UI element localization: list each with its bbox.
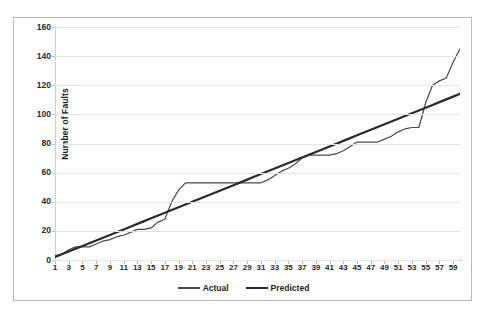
x-axis-tick-mark [275, 261, 276, 264]
x-axis-tick-mark [124, 261, 125, 264]
y-axis-tick-label: 20 [21, 226, 51, 235]
y-axis-tick-mark [52, 231, 55, 232]
x-axis-tick-labels: 1357911131517192123252729313335373941434… [55, 263, 461, 277]
x-axis-tick-mark [426, 261, 427, 264]
gridline [55, 144, 460, 145]
plot-area [55, 27, 460, 260]
y-axis-tick-label: 140 [21, 52, 51, 61]
y-axis-tick-mark [52, 173, 55, 174]
x-axis-tick-mark [82, 261, 83, 264]
x-axis-tick-mark [302, 261, 303, 264]
x-axis-tick-mark [316, 261, 317, 264]
y-axis-tick-mark [52, 85, 55, 86]
x-axis-tick-mark [453, 261, 454, 264]
x-axis-tick-mark [69, 261, 70, 264]
x-axis-tick-mark [96, 261, 97, 264]
y-axis-tick-label: 160 [21, 23, 51, 32]
x-axis-tick-mark [343, 261, 344, 264]
x-axis-tick-mark [151, 261, 152, 264]
gridline [55, 27, 460, 28]
x-axis-tick-mark [371, 261, 372, 264]
y-axis-tick-mark [52, 202, 55, 203]
series-line-predicted [55, 94, 460, 257]
x-axis-tick-mark [55, 261, 56, 264]
gridline [55, 260, 460, 261]
x-axis-tick-mark [398, 261, 399, 264]
x-axis-tick-mark [206, 261, 207, 264]
legend-label-actual: Actual [203, 283, 229, 293]
x-axis-tick-mark [247, 261, 248, 264]
gridline [55, 173, 460, 174]
x-axis-tick-mark [261, 261, 262, 264]
y-axis-tick-labels: 020406080100120140160 [17, 18, 51, 270]
x-axis-tick-mark [412, 261, 413, 264]
y-axis-tick-mark [52, 114, 55, 115]
x-axis-tick-mark [288, 261, 289, 264]
gridline [55, 114, 460, 115]
series-line-actual [55, 49, 460, 256]
y-axis-tick-mark [52, 144, 55, 145]
legend-line-icon-predicted [246, 287, 268, 289]
gridline [55, 85, 460, 86]
x-axis-tick-mark [220, 261, 221, 264]
x-axis-tick-mark [233, 261, 234, 264]
x-axis-tick-mark [110, 261, 111, 264]
chart-legend: Actual Predicted [14, 280, 473, 296]
y-axis-tick-mark [52, 27, 55, 28]
y-axis-tick-mark [52, 56, 55, 57]
legend-item-actual[interactable]: Actual [178, 283, 229, 293]
y-axis-tick-label: 100 [21, 110, 51, 119]
x-axis-tick-mark [137, 261, 138, 264]
chart-container: Number of Faults 020406080100120140160 1… [13, 17, 472, 301]
x-axis-tick-mark [384, 261, 385, 264]
legend-item-predicted[interactable]: Predicted [246, 283, 310, 293]
x-axis-tick-mark [165, 261, 166, 264]
legend-line-icon-actual [178, 287, 200, 288]
y-axis-tick-label: 120 [21, 81, 51, 90]
x-axis-tick-mark [179, 261, 180, 264]
x-axis-tick-mark [357, 261, 358, 264]
y-axis-tick-label: 80 [21, 139, 51, 148]
x-axis-tick-label: 59 [443, 263, 463, 273]
y-axis-tick-label: 60 [21, 168, 51, 177]
legend-label-predicted: Predicted [271, 283, 310, 293]
y-axis-tick-label: 40 [21, 197, 51, 206]
x-axis-tick-mark [192, 261, 193, 264]
gridline [55, 56, 460, 57]
x-axis-tick-mark [439, 261, 440, 264]
x-axis-tick-mark [330, 261, 331, 264]
gridline [55, 231, 460, 232]
gridline [55, 202, 460, 203]
